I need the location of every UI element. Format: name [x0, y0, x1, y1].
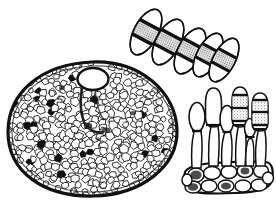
- pycnidium-cell: [49, 91, 55, 97]
- pycnidium-cell: [61, 182, 69, 188]
- ostiole: [78, 68, 109, 90]
- pycnidium-cell: [150, 91, 155, 96]
- pycnidium-cell: [164, 137, 171, 143]
- pycnidium-cell: [62, 161, 71, 169]
- pycnidium-cell: [113, 182, 121, 189]
- pycnidium-cell: [45, 141, 54, 148]
- pycnidium-cell: [156, 99, 163, 106]
- pycnidium-cell: [144, 99, 152, 105]
- pycnidium-cell: [97, 163, 105, 169]
- figure-root: [0, 0, 276, 212]
- pycnidium-cell: [123, 122, 129, 128]
- pycnidium-cell: [152, 150, 161, 157]
- line-drawing-canvas: [0, 0, 276, 212]
